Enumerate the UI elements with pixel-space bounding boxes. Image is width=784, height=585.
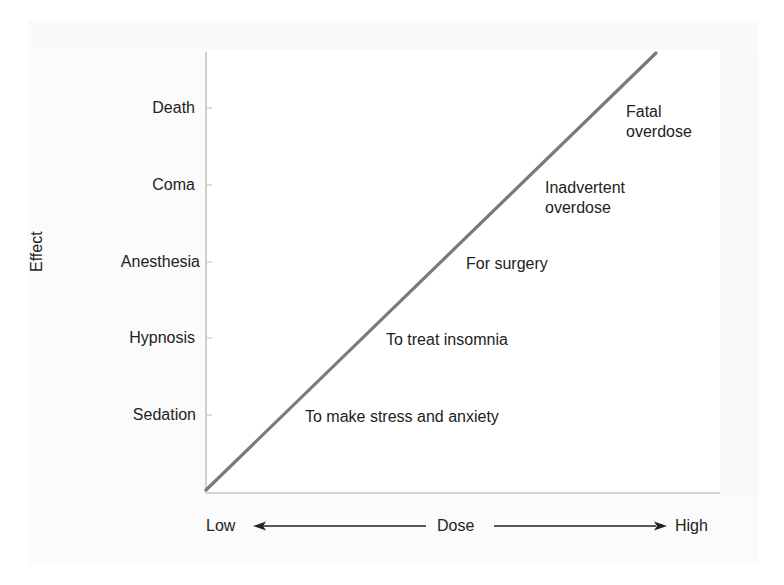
annotation-line: Fatal — [626, 102, 692, 122]
annotation-inadvertent-overdose: Inadvertent overdose — [545, 178, 625, 218]
x-label-low: Low — [206, 517, 235, 535]
y-axis-title: Effect — [28, 231, 46, 272]
chart-plot-area — [0, 0, 784, 585]
annotation-line: overdose — [545, 198, 625, 218]
y-label-hypnosis: Hypnosis — [45, 329, 195, 347]
y-label-sedation: Sedation — [46, 406, 196, 424]
annotation-fatal-overdose: Fatal overdose — [626, 102, 692, 142]
annotation-stress-anxiety: To make stress and anxiety — [305, 407, 499, 427]
y-label-anesthesia: Anesthesia — [50, 253, 200, 271]
y-label-coma: Coma — [45, 176, 195, 194]
x-label-high: High — [675, 517, 708, 535]
y-label-death: Death — [45, 99, 195, 117]
annotation-line: overdose — [626, 122, 692, 142]
annotation-treat-insomnia: To treat insomnia — [386, 330, 508, 350]
annotation-for-surgery: For surgery — [466, 254, 548, 274]
annotation-line: Inadvertent — [545, 178, 625, 198]
x-axis-title: Dose — [437, 517, 474, 535]
